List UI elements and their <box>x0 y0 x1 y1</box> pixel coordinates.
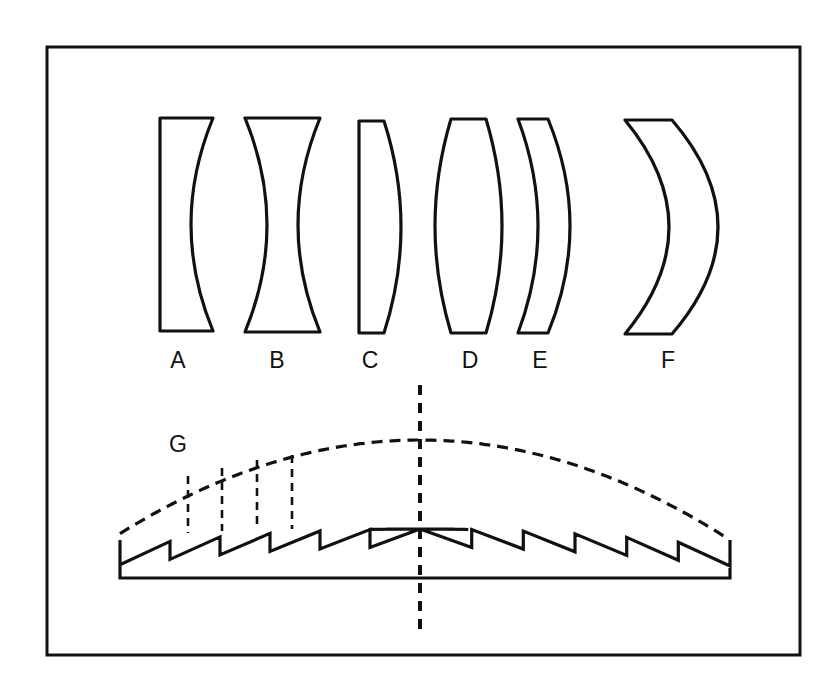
lens-b-label: B <box>269 347 284 373</box>
lens-diagram-svg: ABCDEF G <box>0 0 819 691</box>
lens-a-label: A <box>170 347 186 373</box>
lens-c-label: C <box>362 347 379 373</box>
lens-d-outline <box>435 119 502 333</box>
lens-f-label: F <box>661 347 675 373</box>
fresnel-lens-label: G <box>169 431 187 457</box>
figure-root: ABCDEF G <box>0 0 819 691</box>
lens-e-label: E <box>532 347 547 373</box>
lens-d-label: D <box>462 347 479 373</box>
figure-background <box>0 0 819 691</box>
